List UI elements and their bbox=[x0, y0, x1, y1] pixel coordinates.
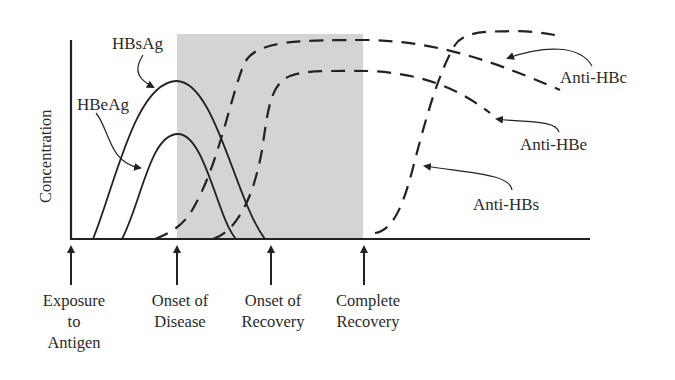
hbsag-label: HBsAg bbox=[112, 33, 163, 54]
event-complete-label: Complete Recovery bbox=[313, 290, 423, 332]
disease-period-shading bbox=[177, 34, 363, 239]
hbeag-label: HBeAg bbox=[77, 94, 129, 115]
event-complete-line2: Recovery bbox=[313, 311, 423, 332]
y-axis-label: Concentration bbox=[36, 110, 56, 203]
event-exposure-line1: Exposure bbox=[19, 290, 129, 311]
event-exposure-line3: Antigen bbox=[19, 332, 129, 353]
anti-hbc-label: Anti-HBc bbox=[560, 67, 627, 88]
hbeag-pointer bbox=[96, 113, 140, 168]
event-exposure-line2: to bbox=[19, 311, 129, 332]
anti-hbe-label: Anti-HBe bbox=[520, 134, 587, 155]
event-complete-line1: Complete bbox=[313, 290, 423, 311]
event-exposure-label: Exposure to Antigen bbox=[19, 290, 129, 353]
hbsag-pointer bbox=[138, 55, 153, 87]
anti-hbc-pointer bbox=[508, 49, 592, 66]
anti-hbs-pointer bbox=[425, 166, 512, 190]
anti-hbs-label: Anti-HBs bbox=[473, 194, 539, 215]
anti-hbe-pointer bbox=[497, 119, 559, 132]
event-recovery-line1: Onset of bbox=[218, 290, 328, 311]
event-recovery-line2: Recovery bbox=[218, 311, 328, 332]
event-recovery-label: Onset of Recovery bbox=[218, 290, 328, 332]
